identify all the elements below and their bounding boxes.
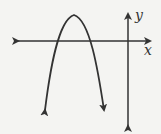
coordinate-plane: y x xyxy=(0,0,161,134)
graph-diagram: y x xyxy=(0,0,161,134)
y-axis-label: y xyxy=(134,7,144,23)
parabola-curve xyxy=(45,15,104,110)
x-axis-label: x xyxy=(144,42,152,58)
